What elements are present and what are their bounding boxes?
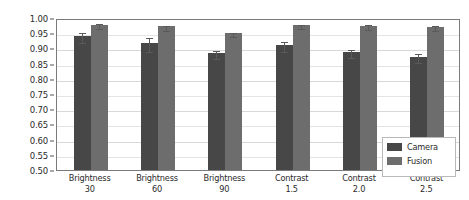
error-bar <box>351 50 352 57</box>
error-bar-cap <box>365 30 372 31</box>
y-axis-tick-label: 1.00 <box>30 14 48 24</box>
legend-label-camera: Camera <box>407 142 438 152</box>
y-axis-tick-label: 0.70 <box>30 105 48 115</box>
error-bar-cap <box>79 43 86 44</box>
x-axis-label-line2: 90 <box>191 184 258 195</box>
bar-slot <box>360 20 377 170</box>
chart-legend: Camera Fusion <box>382 137 456 177</box>
error-bar-cap <box>415 54 422 55</box>
error-bar-cap <box>298 29 305 30</box>
bar-group <box>192 20 259 170</box>
error-bar-cap <box>146 52 153 53</box>
bar-slot <box>225 20 242 170</box>
error-bar-cap <box>230 37 237 38</box>
y-axis-tick-mark <box>50 95 54 96</box>
x-axis-label-line1: Contrast <box>275 173 308 183</box>
bar-group <box>259 20 326 170</box>
bar-slot <box>74 20 91 170</box>
legend-item-fusion: Fusion <box>387 155 451 167</box>
y-axis: 0.500.550.600.650.700.750.800.850.900.95… <box>0 0 56 200</box>
error-bar-cap <box>348 50 355 51</box>
error-bar <box>216 51 217 59</box>
y-axis-tick-label: 0.55 <box>30 151 48 161</box>
y-axis-tick-mark <box>50 79 54 80</box>
bar-fusion <box>293 25 310 170</box>
x-axis-labels: Brightness30Brightness60Brightness90Cont… <box>56 173 460 200</box>
bar-group <box>124 20 191 170</box>
error-bar-cap <box>163 31 170 32</box>
error-bar-cap <box>96 24 103 25</box>
bar-fusion <box>91 25 108 170</box>
y-axis-tick-label: 0.65 <box>30 120 48 130</box>
y-axis-tick-label: 0.50 <box>30 166 48 176</box>
x-axis-label-line1: Brightness <box>136 173 178 183</box>
bar-fusion <box>225 33 242 170</box>
bar-camera <box>74 36 91 170</box>
error-bar <box>149 38 150 52</box>
x-axis-label-line2: 2.0 <box>325 184 392 195</box>
y-axis-tick-mark <box>50 140 54 141</box>
y-axis-tick-label: 0.95 <box>30 29 48 39</box>
error-bar-cap <box>213 51 220 52</box>
x-axis-label: Brightness30 <box>56 173 123 195</box>
error-bar-cap <box>415 63 422 64</box>
bar-group <box>57 20 124 170</box>
error-bar-cap <box>96 29 103 30</box>
error-bar-cap <box>432 26 439 27</box>
error-bar <box>284 42 285 52</box>
y-axis-tick-label: 0.75 <box>30 90 48 100</box>
bar-fusion <box>360 26 377 170</box>
bar-slot <box>293 20 310 170</box>
bar-fusion <box>158 26 175 170</box>
x-axis-label-line2: 2.5 <box>393 184 460 195</box>
error-bar-cap <box>213 59 220 60</box>
error-bar-cap <box>365 25 372 26</box>
y-axis-tick-label: 0.80 <box>30 75 48 85</box>
x-axis-label-line1: Brightness <box>69 173 111 183</box>
x-axis-label-line2: 1.5 <box>258 184 325 195</box>
x-axis-label: Brightness90 <box>191 173 258 195</box>
error-bar-cap <box>348 58 355 59</box>
x-axis-label: Contrast1.5 <box>258 173 325 195</box>
bar-slot <box>276 20 293 170</box>
bar-camera <box>276 45 293 170</box>
bar-slot <box>91 20 108 170</box>
y-axis-tick-mark <box>50 110 54 111</box>
y-axis-tick-label: 0.60 <box>30 136 48 146</box>
y-axis-tick-mark <box>50 125 54 126</box>
x-axis-label-line1: Brightness <box>204 173 246 183</box>
y-axis-tick-label: 0.90 <box>30 44 48 54</box>
error-bar-cap <box>146 38 153 39</box>
bar-slot <box>158 20 175 170</box>
legend-swatch-camera <box>387 143 402 151</box>
error-bar <box>418 54 419 63</box>
y-axis-tick-label: 0.85 <box>30 60 48 70</box>
error-bar <box>82 33 83 43</box>
y-axis-tick-mark <box>50 64 54 65</box>
bar-slot <box>141 20 158 170</box>
legend-label-fusion: Fusion <box>407 156 432 166</box>
bar-camera <box>208 53 225 170</box>
error-bar-cap <box>281 52 288 53</box>
error-bar-cap <box>432 31 439 32</box>
x-axis-label-line2: 30 <box>56 184 123 195</box>
x-axis-label-line1: Contrast <box>342 173 375 183</box>
y-axis-tick-mark <box>50 34 54 35</box>
bar-chart-figure: 0.500.550.600.650.700.750.800.850.900.95… <box>0 0 469 200</box>
y-axis-tick-mark <box>50 49 54 50</box>
x-axis-label-line2: 60 <box>123 184 190 195</box>
bar-camera <box>141 43 158 170</box>
y-axis-tick-mark <box>50 19 54 20</box>
legend-item-camera: Camera <box>387 141 451 153</box>
bar-slot <box>343 20 360 170</box>
bar-camera <box>343 52 360 170</box>
y-axis-tick-mark <box>50 155 54 156</box>
y-axis-tick-mark <box>50 171 54 172</box>
bar-slot <box>208 20 225 170</box>
legend-swatch-fusion <box>387 157 402 165</box>
error-bar-cap <box>79 33 86 34</box>
error-bar-cap <box>298 25 305 26</box>
error-bar-cap <box>163 26 170 27</box>
error-bar-cap <box>281 42 288 43</box>
x-axis-label: Brightness60 <box>123 173 190 195</box>
